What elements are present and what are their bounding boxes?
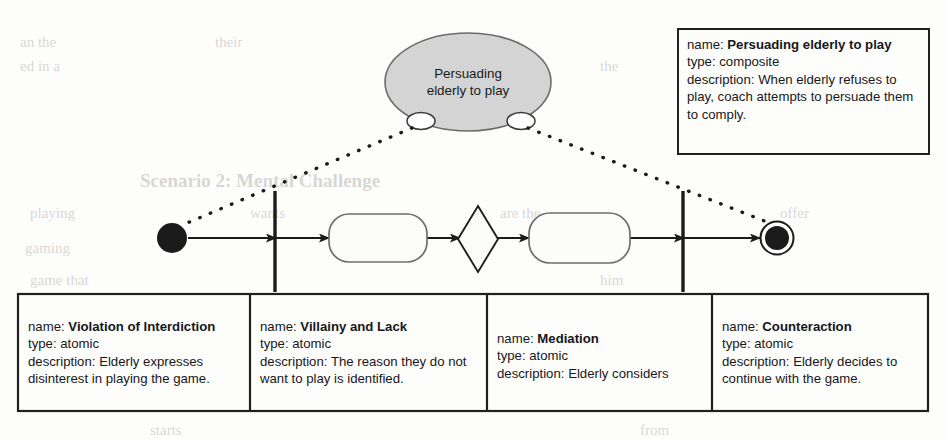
pin-right-icon[interactable]: [507, 113, 535, 130]
note-type-row: type: atomic: [28, 335, 240, 352]
note-label-type: type:: [260, 336, 289, 351]
note-value-description: Elderly considers: [568, 366, 668, 381]
note-value-name: Villainy and Lack: [300, 319, 407, 334]
note-label-name: name:: [497, 331, 534, 346]
note-value-name: Counteraction: [762, 319, 851, 334]
note-cell-counteraction[interactable]: name: Counteraction type: atomic descrip…: [714, 318, 926, 409]
diagram-canvas: an the ed in a their the Scenario 2: Men…: [0, 0, 946, 439]
note-value-type: atomic: [529, 348, 568, 363]
note-name-row: name: Counteraction: [722, 318, 918, 335]
note-label-name: name:: [687, 37, 724, 52]
action-node-1[interactable]: [329, 214, 427, 262]
note-name-row: name: Villainy and Lack: [260, 318, 477, 335]
note-label-description: description:: [722, 354, 789, 369]
note-name-row: name: Mediation: [497, 330, 702, 347]
note-value-name: Violation of Interdiction: [68, 319, 215, 334]
note-cell-villainy-and-lack[interactable]: name: Villainy and Lack type: atomic des…: [252, 318, 485, 409]
note-description-row: description: Elderly expresses disintere…: [28, 353, 240, 388]
note-type-row: type: atomic: [722, 335, 918, 352]
note-label-type: type:: [28, 336, 57, 351]
action-node-2[interactable]: [529, 213, 630, 263]
note-cell-violation-of-interdiction[interactable]: name: Violation of Interdiction type: at…: [20, 318, 248, 409]
note-value-type: atomic: [292, 336, 331, 351]
note-composite-type-row: type: composite: [687, 53, 920, 70]
note-label-type: type:: [497, 348, 526, 363]
note-name-row: name: Violation of Interdiction: [28, 318, 240, 335]
note-description-row: description: The reason they do not want…: [260, 353, 477, 388]
decision-diamond[interactable]: [458, 206, 498, 272]
note-label-description: description:: [687, 72, 754, 87]
note-label-description: description:: [28, 354, 95, 369]
note-label-description: description:: [497, 366, 564, 381]
note-label-name: name:: [722, 319, 759, 334]
note-description-row: description: Elderly considers: [497, 365, 702, 382]
note-type-row: type: atomic: [497, 347, 702, 364]
note-label-name: name:: [28, 319, 65, 334]
initial-node[interactable]: [157, 223, 187, 253]
note-value-name: Mediation: [537, 331, 599, 346]
note-composite-description-row: description: When elderly refuses to pla…: [687, 71, 920, 123]
note-label-name: name:: [260, 319, 297, 334]
note-value-type: composite: [719, 54, 779, 69]
note-type-row: type: atomic: [260, 335, 477, 352]
note-value-type: atomic: [60, 336, 99, 351]
decomposition-link-left: [180, 128, 412, 226]
note-label-type: type:: [722, 336, 751, 351]
note-value-type: atomic: [754, 336, 793, 351]
final-node-core: [765, 226, 789, 250]
note-description-row: description: Elderly decides to continue…: [722, 353, 918, 388]
note-label-type: type:: [687, 54, 716, 69]
note-composite-name-row: name: Persuading elderly to play: [687, 36, 920, 53]
note-composite[interactable]: name: Persuading elderly to play type: c…: [677, 28, 930, 155]
note-label-description: description:: [260, 354, 327, 369]
note-value-name: Persuading elderly to play: [727, 37, 891, 52]
note-cell-mediation[interactable]: name: Mediation type: atomic description…: [489, 330, 710, 409]
